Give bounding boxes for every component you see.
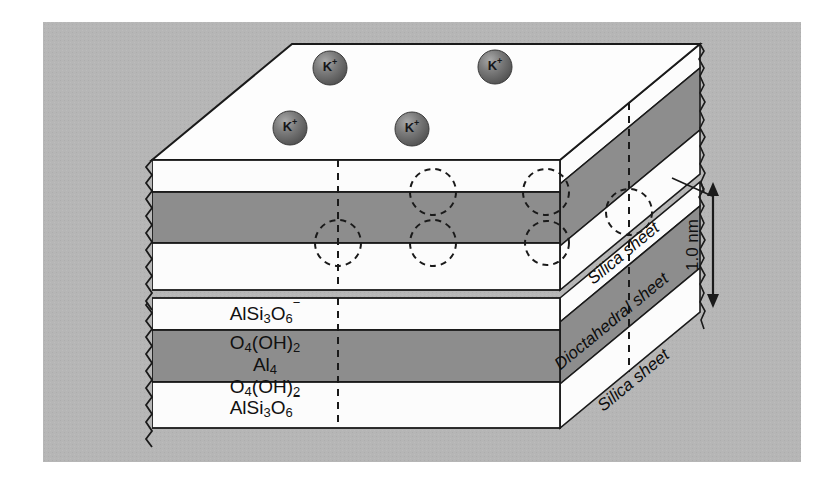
k-ion: K+ (395, 112, 429, 146)
front-band-upper-dioctahedral (152, 192, 560, 243)
upper-block-front-face (152, 160, 560, 290)
dimension-label: 1.0 nm (683, 219, 702, 271)
lower-block-torn-left-edge (146, 298, 152, 447)
lower-block-front-face (152, 298, 560, 428)
front-band-dioctahedral-sheet (152, 330, 560, 382)
formula-octahedral-line3: O4(OH)2 (230, 376, 300, 399)
formula-octahedral-line1: O4(OH)2 (230, 332, 300, 355)
clay-structure-diagram: AlSi3O6− O4(OH)2 Al4 O4(OH)2 AlSi3O6− (0, 0, 840, 485)
k-ion: K+ (273, 111, 307, 145)
figure-root: AlSi3O6− O4(OH)2 Al4 O4(OH)2 AlSi3O6− (0, 0, 840, 485)
front-band-upper-silica-bottom (152, 243, 560, 290)
k-ion: K+ (313, 51, 347, 85)
front-band-silica-sheet-top (152, 298, 560, 330)
front-band-upper-silica-top (152, 160, 560, 192)
k-ion: K+ (478, 50, 512, 84)
front-band-silica-sheet-bottom (152, 382, 560, 428)
